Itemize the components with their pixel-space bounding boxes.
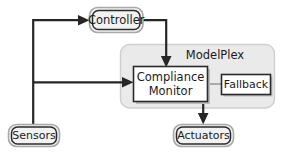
diagram-canvas: ModelPlex <box>0 0 292 152</box>
actuators-label: Actuators <box>177 129 230 142</box>
architecture-diagram: ModelPlex <box>0 0 292 152</box>
modelplex-group-label: ModelPlex <box>186 48 245 62</box>
node-sensors[interactable]: Sensors <box>9 125 60 147</box>
node-actuators[interactable]: Actuators <box>174 125 234 147</box>
edge-sensors-to-compliance-monitor <box>33 77 133 88</box>
fallback-label: Fallback <box>224 78 269 91</box>
node-fallback[interactable]: Fallback <box>222 75 273 97</box>
compliance-monitor-label-line2: Monitor <box>149 84 193 98</box>
edge-sensors-to-controller <box>33 15 89 124</box>
controller-label: Controller <box>88 13 145 27</box>
node-controller[interactable]: Controller <box>88 8 145 33</box>
node-compliance-monitor[interactable]: Compliance Monitor <box>134 67 211 105</box>
compliance-monitor-label-line1: Compliance <box>137 70 205 84</box>
sensors-label: Sensors <box>12 129 56 142</box>
